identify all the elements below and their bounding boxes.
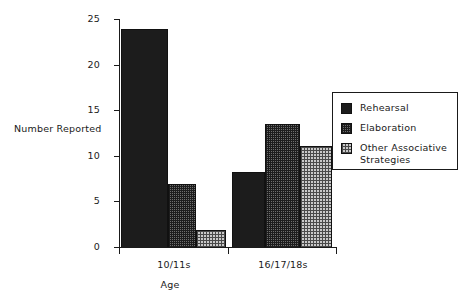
x-axis-tick-right xyxy=(336,248,337,254)
dark-crosshatch-swatch-icon xyxy=(341,123,352,134)
x-axis-tick-middle xyxy=(228,248,229,254)
legend: Rehearsal Elaboration Other Associative … xyxy=(332,92,458,170)
legend-item-rehearsal: Rehearsal xyxy=(341,102,409,114)
bar-chart: 25 20 15 10 5 0 Number Reported 10/11s 1… xyxy=(0,0,466,297)
bar-elaboration-10-11s xyxy=(168,184,196,248)
x-axis-tick-left xyxy=(119,248,120,254)
legend-label-other-associative-strategies: Other Associative Strategies xyxy=(360,142,447,166)
bar-other-associative-16-17-18s xyxy=(300,146,332,248)
bar-rehearsal-10-11s xyxy=(121,29,168,248)
bar-other-associative-10-11s xyxy=(196,230,226,248)
bar-elaboration-16-17-18s xyxy=(265,124,300,248)
light-grid-swatch-icon xyxy=(341,143,352,154)
legend-label-rehearsal: Rehearsal xyxy=(360,102,409,114)
bar-rehearsal-16-17-18s xyxy=(232,172,265,248)
legend-label-elaboration: Elaboration xyxy=(360,122,416,134)
x-axis-group-label-10-11s: 10/11s xyxy=(144,259,204,270)
legend-item-elaboration: Elaboration xyxy=(341,122,416,134)
legend-item-other-associative-strategies: Other Associative Strategies xyxy=(341,142,447,166)
x-axis-group-label-16-17-18s: 16/17/18s xyxy=(248,259,318,270)
x-axis-title: Age xyxy=(0,279,340,290)
solid-black-swatch-icon xyxy=(341,103,352,114)
